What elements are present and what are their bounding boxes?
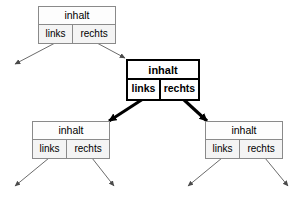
tree-node-child-left[interactable]: inhalt links rechts — [32, 121, 110, 159]
node-left-pointer-cell[interactable]: links — [206, 140, 240, 158]
diagram-canvas: inhalt links rechts inhalt links rechts … — [0, 0, 300, 198]
node-right-pointer-cell[interactable]: rechts — [73, 25, 115, 43]
node-content-cell: inhalt — [33, 122, 109, 140]
edge-child-left-right-dangling — [92, 158, 114, 186]
tree-node-current[interactable]: inhalt links rechts — [126, 59, 200, 101]
edge-root-left-dangling — [15, 43, 55, 64]
edge-child-right-right-dangling — [265, 158, 288, 186]
tree-node-child-right[interactable]: inhalt links rechts — [205, 121, 283, 159]
tree-node-root[interactable]: inhalt links rechts — [38, 6, 116, 44]
node-content-cell: inhalt — [206, 122, 282, 140]
node-left-pointer-cell[interactable]: links — [128, 80, 161, 99]
node-right-pointer-cell[interactable]: rechts — [161, 80, 198, 99]
node-left-pointer-cell[interactable]: links — [39, 25, 73, 43]
node-right-pointer-cell[interactable]: rechts — [240, 140, 282, 158]
node-pointer-row: links rechts — [39, 25, 115, 43]
edge-root-right-current — [97, 43, 125, 58]
node-pointer-row: links rechts — [33, 140, 109, 158]
edge-current-left-child — [109, 99, 143, 121]
edge-current-right-child — [183, 99, 207, 121]
node-left-pointer-cell[interactable]: links — [33, 140, 67, 158]
node-pointer-row: links rechts — [128, 80, 198, 99]
edge-child-left-left-dangling — [15, 158, 49, 186]
node-content-cell: inhalt — [39, 7, 115, 25]
edge-child-right-left-dangling — [188, 158, 222, 186]
node-pointer-row: links rechts — [206, 140, 282, 158]
node-right-pointer-cell[interactable]: rechts — [67, 140, 109, 158]
node-content-cell: inhalt — [128, 61, 198, 80]
